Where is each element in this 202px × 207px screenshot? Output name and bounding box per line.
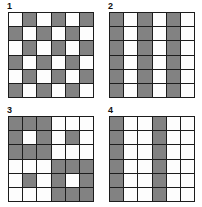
- grid-cell: [110, 41, 124, 55]
- grid-cell: [110, 160, 124, 174]
- panel-3-label: 3: [7, 105, 12, 115]
- grid-cell: [66, 188, 80, 202]
- grid-cell: [167, 145, 181, 159]
- grid-cell: [52, 84, 66, 98]
- grid-cell: [181, 27, 195, 41]
- grid-cell: [23, 84, 37, 98]
- grid-cell: [80, 117, 94, 131]
- grid-cell: [124, 56, 138, 70]
- grid-cell: [9, 188, 23, 202]
- grid-cell: [37, 27, 51, 41]
- grid-cell: [23, 56, 37, 70]
- grid-cell: [80, 174, 94, 188]
- grid-cell: [138, 84, 152, 98]
- grid-cell: [80, 131, 94, 145]
- grid-cell: [80, 27, 94, 41]
- panel-1: 1: [0, 0, 101, 104]
- grid-cell: [9, 84, 23, 98]
- grid-cell: [9, 70, 23, 84]
- grid-cell: [153, 84, 167, 98]
- grid-cell: [181, 70, 195, 84]
- grid-cell: [181, 131, 195, 145]
- grid-cell: [9, 174, 23, 188]
- grid-cell: [66, 131, 80, 145]
- grid-cell: [23, 70, 37, 84]
- grid-cell: [23, 160, 37, 174]
- grid-cell: [138, 188, 152, 202]
- grid-cell: [153, 70, 167, 84]
- panel-2: 2: [101, 0, 202, 104]
- grid-cell: [124, 174, 138, 188]
- grid-cell: [138, 56, 152, 70]
- grid-cell: [153, 117, 167, 131]
- grid-cell: [153, 27, 167, 41]
- grid-cell: [23, 41, 37, 55]
- grid-cell: [153, 56, 167, 70]
- grid-cell: [52, 27, 66, 41]
- grid-cell: [9, 117, 23, 131]
- grid-cell: [9, 41, 23, 55]
- grid-cell: [110, 56, 124, 70]
- grid-cell: [124, 160, 138, 174]
- grid-cell: [66, 56, 80, 70]
- grid-cell: [52, 188, 66, 202]
- grid-cell: [52, 131, 66, 145]
- grid-cell: [181, 41, 195, 55]
- grid-cell: [124, 117, 138, 131]
- panel-4-grid: [109, 116, 195, 202]
- panel-2-grid: [109, 12, 195, 98]
- grid-cell: [110, 70, 124, 84]
- grid-cell: [52, 160, 66, 174]
- grid-cell: [9, 27, 23, 41]
- grid-cell: [52, 13, 66, 27]
- grid-cell: [80, 13, 94, 27]
- grid-cell: [181, 145, 195, 159]
- grid-cell: [167, 84, 181, 98]
- grid-cell: [153, 41, 167, 55]
- grid-cell: [138, 27, 152, 41]
- panel-4: 4: [101, 104, 202, 207]
- grid-cell: [181, 160, 195, 174]
- grid-cell: [138, 145, 152, 159]
- grid-cell: [167, 56, 181, 70]
- grid-cell: [66, 174, 80, 188]
- grid-cell: [110, 84, 124, 98]
- grid-cell: [181, 174, 195, 188]
- grid-cell: [52, 174, 66, 188]
- panel-1-label: 1: [7, 1, 12, 11]
- panel-3: 3: [0, 104, 101, 207]
- grid-cell: [167, 27, 181, 41]
- grid-cell: [9, 145, 23, 159]
- grid-cell: [80, 41, 94, 55]
- grid-cell: [37, 84, 51, 98]
- grid-cell: [52, 145, 66, 159]
- grid-cell: [66, 160, 80, 174]
- grid-cell: [124, 13, 138, 27]
- grid-cell: [181, 117, 195, 131]
- grid-cell: [9, 13, 23, 27]
- grid-cell: [153, 174, 167, 188]
- grid-cell: [80, 188, 94, 202]
- panel-3-grid: [8, 116, 94, 202]
- grid-cell: [138, 70, 152, 84]
- grid-cell: [153, 13, 167, 27]
- grid-cell: [80, 160, 94, 174]
- grid-cell: [167, 70, 181, 84]
- grid-cell: [66, 84, 80, 98]
- grid-cell: [80, 145, 94, 159]
- grid-cell: [138, 131, 152, 145]
- grid-cell: [181, 56, 195, 70]
- grid-cell: [138, 13, 152, 27]
- grid-cell: [52, 41, 66, 55]
- grid-cell: [181, 188, 195, 202]
- grid-cell: [37, 41, 51, 55]
- grid-cell: [181, 84, 195, 98]
- grid-cell: [9, 131, 23, 145]
- grid-cell: [37, 13, 51, 27]
- grid-cell: [66, 41, 80, 55]
- grid-cell: [66, 27, 80, 41]
- grid-cell: [124, 145, 138, 159]
- grid-cell: [167, 13, 181, 27]
- grid-cell: [167, 117, 181, 131]
- grid-cell: [52, 56, 66, 70]
